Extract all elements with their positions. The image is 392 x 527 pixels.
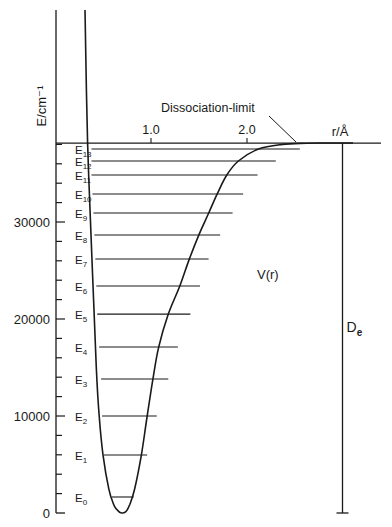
level-label-sub: 6 [83, 287, 88, 296]
dissociation-limit-label: Dissociation-limit [161, 101, 255, 115]
x-ticks: 1.02.0 [142, 123, 255, 143]
energy-level-label: E0 [75, 492, 88, 507]
de-label: De [347, 319, 363, 338]
y-tick-label: 10000 [14, 409, 50, 424]
level-label-sub: 10 [83, 195, 92, 204]
axes [56, 10, 381, 513]
level-label-sub: 3 [83, 380, 88, 389]
y-tick-label: 20000 [14, 312, 50, 327]
y-ticks: 0100002000030000 [14, 144, 65, 521]
energy-level-label: E3 [75, 374, 88, 389]
dissociation-energy-marker: De [337, 143, 363, 513]
level-label-sub: 0 [83, 498, 88, 507]
y-axis-label: E/cm⁻¹ [34, 85, 49, 127]
level-label-sub: 9 [83, 214, 88, 223]
energy-level-label: E1 [75, 450, 88, 465]
energy-level-label: E8 [75, 230, 88, 245]
y-tick-label: 30000 [14, 215, 50, 230]
x-tick-label: 1.0 [142, 123, 159, 137]
level-label-sub: 1 [83, 456, 88, 465]
y-tick-label: 0 [43, 506, 50, 521]
energy-level-label: E2 [75, 411, 88, 426]
level-label-sub: 4 [83, 348, 88, 357]
level-label-sub: 12 [83, 162, 92, 171]
x-tick-label: 2.0 [238, 123, 255, 137]
curve-label: V(r) [257, 267, 279, 282]
dissociation-leader-line [269, 116, 296, 142]
level-label-sub: 2 [83, 417, 88, 426]
level-label-sub: 11 [83, 176, 92, 185]
energy-level-label: E6 [75, 281, 88, 296]
potential-energy-diagram: 0100002000030000 1.02.0 E0E1E2E3E4E5E6E7… [0, 0, 392, 527]
potential-curve [85, 10, 353, 513]
energy-levels: E0E1E2E3E4E5E6E7E8E9E10E11E12E13 [75, 144, 300, 507]
level-label-sub: 8 [83, 236, 88, 245]
energy-level-label: E9 [75, 208, 88, 223]
x-axis-label: r/Å [332, 124, 349, 139]
energy-level-label: E5 [75, 309, 88, 324]
energy-level-label: E7 [75, 254, 88, 269]
de-label-main: D [347, 319, 357, 335]
level-label-sub: 7 [83, 260, 88, 269]
de-label-sub: e [357, 327, 363, 338]
level-label-sub: 5 [83, 315, 88, 324]
energy-level-label: E4 [75, 342, 88, 357]
